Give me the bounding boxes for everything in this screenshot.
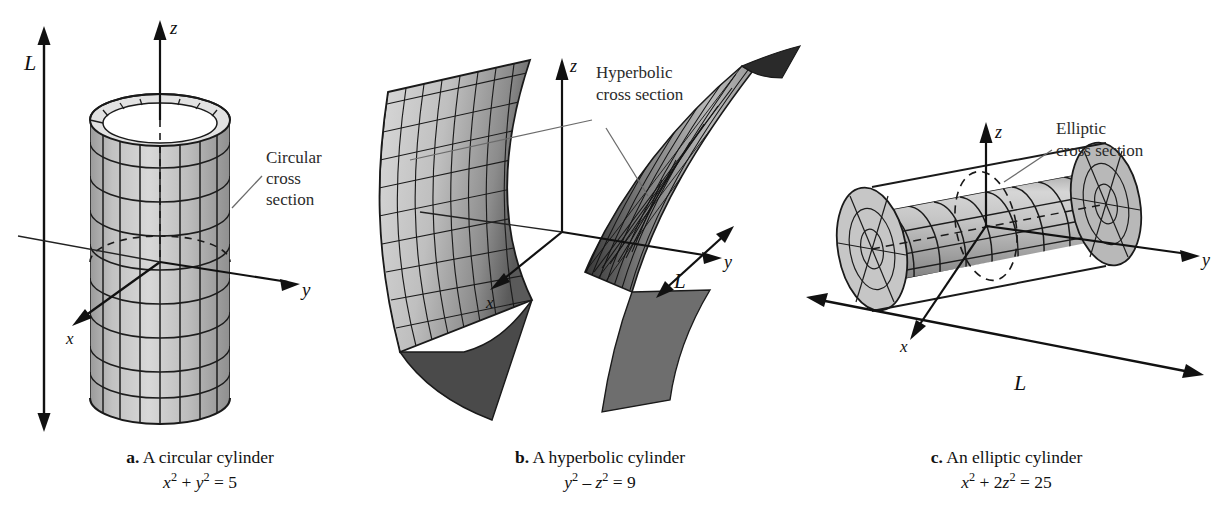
caption-b-equation: y2 – z2 = 9 xyxy=(380,469,820,494)
axis-x-label-a: x xyxy=(65,329,74,348)
hyperbolic-cylinder-graphic: z y x L xyxy=(380,0,820,445)
caption-b-text: A hyperbolic cylinder xyxy=(532,447,685,467)
annotation-line-2: cross section xyxy=(1056,141,1144,160)
figure-cylinders: L xyxy=(0,0,1223,525)
length-indicator-b: L xyxy=(656,226,734,298)
length-label-c: L xyxy=(1013,370,1026,395)
caption-a-equation: x2 + y2 = 5 xyxy=(0,469,400,494)
cylinder-body-a xyxy=(90,94,230,428)
panel-elliptic-cylinder: z y x L xyxy=(790,0,1223,525)
axis-y-label-c: y xyxy=(1200,250,1210,270)
annotation-line-1: Circular xyxy=(266,148,322,167)
length-indicator-a: L xyxy=(23,26,51,432)
caption-b: b. A hyperbolic cylinder y2 – z2 = 9 xyxy=(380,446,820,494)
caption-a-lead: a. xyxy=(126,447,139,467)
annotation-line-3: section xyxy=(266,190,315,209)
panel-hyperbolic-cylinder: z y x L xyxy=(380,0,820,525)
caption-a: a. A circular cylinder x2 + y2 = 5 xyxy=(0,446,400,494)
annotation-line-2: cross xyxy=(266,169,301,188)
caption-b-lead: b. xyxy=(515,447,529,467)
axis-y-label-a: y xyxy=(300,279,311,300)
panel-circular-cylinder: L xyxy=(0,0,400,525)
elliptic-cylinder-graphic: z y x L xyxy=(790,0,1223,445)
caption-c: c. An elliptic cylinder x2 + 2z2 = 25 xyxy=(790,446,1223,494)
axis-x-label-b: x xyxy=(485,293,494,312)
caption-a-text: A circular cylinder xyxy=(143,447,274,467)
caption-c-lead: c. xyxy=(931,447,943,467)
axis-x-label-c: x xyxy=(899,337,908,356)
annotation-circular-cross-section: Circular cross section xyxy=(232,148,322,209)
circular-cylinder-graphic: L xyxy=(0,0,400,445)
axis-z-label-b: z xyxy=(569,56,577,76)
annotation-line-1: Elliptic xyxy=(1056,119,1107,138)
axis-y-label-b: y xyxy=(722,252,732,272)
axis-z-label-c: z xyxy=(994,122,1002,142)
caption-c-equation: x2 + 2z2 = 25 xyxy=(790,469,1223,494)
hyperbolic-sheet-left xyxy=(379,60,532,420)
caption-c-text: An elliptic cylinder xyxy=(946,447,1082,467)
length-label-a: L xyxy=(23,50,36,75)
length-indicator-c: L xyxy=(806,293,1204,395)
length-label-b: L xyxy=(673,269,686,293)
axis-z-label-a: z xyxy=(169,17,178,38)
annotation-line-2: cross section xyxy=(596,85,684,104)
annotation-line-1: Hyperbolic xyxy=(596,63,673,82)
axis-z-b: z xyxy=(556,56,578,232)
